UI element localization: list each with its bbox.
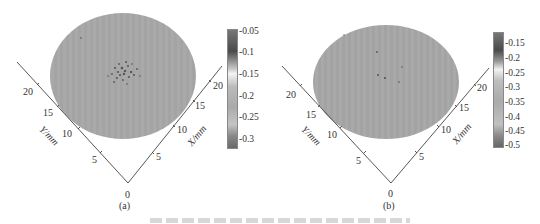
y-tick-15: 15 (306, 110, 316, 120)
x-tick-15: 15 (459, 103, 469, 113)
cbar-tick: -0.4 (505, 113, 520, 123)
x-tick-10: 10 (441, 125, 451, 135)
chart-panel-a: 20 15 10 5 0 5 10 15 20 Y/mm X/mm -0.05 … (0, 0, 270, 210)
y-tick-15: 15 (43, 108, 53, 118)
x-tick-15: 15 (195, 101, 205, 111)
cbar-tick: -0.3 (239, 135, 254, 145)
y-tick-20: 20 (286, 90, 296, 100)
cbar-tick: -0.35 (505, 98, 525, 108)
cbar-tick: -0.2 (239, 92, 254, 102)
origin-tick: 0 (125, 190, 130, 200)
y-tick-10: 10 (62, 129, 72, 139)
x-tick-20: 20 (213, 81, 223, 91)
panel-label-a: (a) (119, 200, 130, 211)
y-tick-5: 5 (92, 155, 97, 165)
cbar-tick: -0.1 (239, 48, 254, 58)
x-tick-5: 5 (419, 152, 424, 162)
cbar-tick: -0.25 (239, 113, 259, 123)
cbar-tick: -0.5 (505, 141, 520, 151)
x-tick-20: 20 (477, 83, 487, 93)
cbar-tick: -0.05 (239, 27, 259, 37)
y-tick-10: 10 (327, 130, 337, 140)
cbar-tick: -0.3 (505, 83, 520, 93)
cbar-tick: -0.15 (505, 39, 525, 49)
x-tick-10: 10 (177, 125, 187, 135)
x-tick-5: 5 (156, 152, 161, 162)
y-tick-5: 5 (356, 156, 361, 166)
colorbar-b (493, 32, 504, 148)
colorbar-a (227, 29, 238, 149)
cbar-tick: -0.15 (239, 70, 259, 80)
cbar-tick: -0.2 (505, 54, 520, 64)
figure-caption-faint (150, 213, 410, 224)
cbar-tick: -0.25 (505, 69, 525, 79)
cbar-tick: -0.45 (505, 127, 525, 137)
panel-label-b: (b) (383, 200, 395, 211)
y-tick-20: 20 (23, 87, 33, 97)
chart-panel-b: 20 15 10 5 0 5 10 15 20 Y/mm X/mm -0.15 … (270, 0, 540, 210)
origin-tick: 0 (388, 189, 393, 199)
